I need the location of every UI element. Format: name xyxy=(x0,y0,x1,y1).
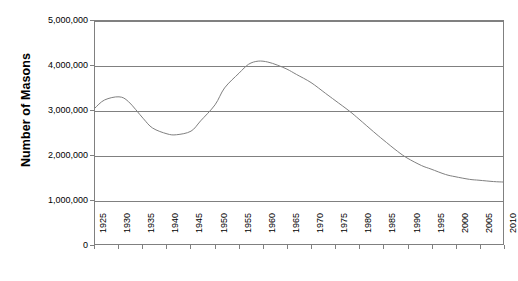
x-tick-label: 1940 xyxy=(170,213,180,249)
x-tick-label: 2005 xyxy=(484,213,494,249)
y-tick-label: 3,000,000 xyxy=(48,105,88,115)
x-tick-label: 1960 xyxy=(267,213,277,249)
y-axis-tick-labels: 5,000,0004,000,0003,000,0002,000,0001,00… xyxy=(0,0,94,281)
series-line xyxy=(95,61,503,182)
x-tick-label: 1935 xyxy=(146,213,156,249)
x-tick-mark xyxy=(311,245,312,249)
x-tick-mark xyxy=(432,245,433,249)
x-tick-mark xyxy=(456,245,457,249)
x-tick-mark xyxy=(190,245,191,249)
x-tick-mark xyxy=(335,245,336,249)
x-tick-label: 1945 xyxy=(194,213,204,249)
y-tick-label: 1,000,000 xyxy=(48,195,88,205)
x-tick-mark xyxy=(239,245,240,249)
x-tick-mark xyxy=(142,245,143,249)
x-tick-mark xyxy=(504,245,505,249)
x-tick-label: 1995 xyxy=(436,213,446,249)
plot-area xyxy=(94,20,504,245)
y-tick-label: 2,000,000 xyxy=(48,150,88,160)
y-tick-label: 5,000,000 xyxy=(48,15,88,25)
x-tick-label: 1965 xyxy=(291,213,301,249)
y-tick-label: 0 xyxy=(83,240,88,250)
x-tick-label: 1925 xyxy=(98,213,108,249)
x-tick-label: 2000 xyxy=(460,213,470,249)
x-tick-mark xyxy=(480,245,481,249)
x-tick-label: 1970 xyxy=(315,213,325,249)
x-tick-label: 2010 xyxy=(508,213,518,249)
y-tick-label: 4,000,000 xyxy=(48,60,88,70)
x-tick-mark xyxy=(166,245,167,249)
x-tick-label: 1975 xyxy=(339,213,349,249)
x-tick-label: 1950 xyxy=(219,213,229,249)
x-tick-mark xyxy=(263,245,264,249)
series-line-layer xyxy=(95,21,503,244)
x-tick-mark xyxy=(359,245,360,249)
x-tick-mark xyxy=(287,245,288,249)
x-tick-label: 1990 xyxy=(412,213,422,249)
x-tick-label: 1930 xyxy=(122,213,132,249)
x-tick-mark xyxy=(118,245,119,249)
x-tick-mark xyxy=(383,245,384,249)
x-tick-label: 1985 xyxy=(387,213,397,249)
x-tick-mark xyxy=(408,245,409,249)
x-tick-label: 1955 xyxy=(243,213,253,249)
x-tick-label: 1980 xyxy=(363,213,373,249)
x-tick-mark xyxy=(94,245,95,249)
x-tick-mark xyxy=(215,245,216,249)
